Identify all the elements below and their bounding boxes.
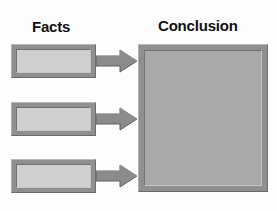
- fact-box-2[interactable]: [11, 102, 96, 136]
- conclusion-box-inner: [144, 50, 262, 186]
- facts-heading: Facts: [32, 18, 70, 35]
- fact-box-3-inner: [16, 164, 91, 188]
- conclusion-box[interactable]: [138, 44, 268, 192]
- arrow-right-icon-3: [96, 164, 138, 188]
- arrow-right-icon-2: [96, 107, 138, 131]
- fact-box-2-inner: [16, 107, 91, 131]
- arrow-right-icon-1: [96, 49, 138, 73]
- fact-box-1[interactable]: [11, 44, 96, 78]
- fact-box-3[interactable]: [11, 159, 96, 193]
- diagram-canvas: Facts Conclusion: [0, 0, 277, 211]
- conclusion-heading: Conclusion: [158, 17, 238, 34]
- fact-box-1-inner: [16, 49, 91, 73]
